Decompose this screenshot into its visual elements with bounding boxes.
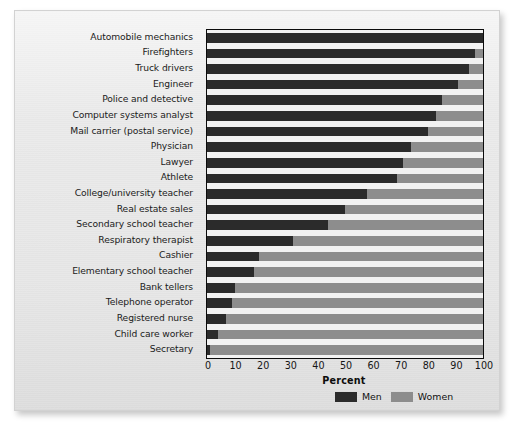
category-label: College/university teacher [75, 188, 193, 198]
legend-item: Men [335, 392, 382, 402]
category-label: Computer systems analyst [72, 110, 193, 120]
x-tick-label: 0 [205, 360, 211, 371]
x-tick-label: 10 [229, 360, 241, 371]
bar-segment-men [207, 205, 345, 215]
x-tick-label: 80 [423, 360, 435, 371]
bar-segment-women [403, 158, 483, 168]
legend-swatch-women [391, 392, 413, 402]
bar-row [207, 49, 483, 59]
category-label: Bank tellers [140, 282, 193, 292]
category-label: Automobile mechanics [90, 32, 193, 42]
bar-segment-men [207, 33, 483, 43]
category-label: Registered nurse [117, 313, 193, 323]
bar-segment-men [207, 298, 232, 308]
category-label: Truck drivers [135, 63, 193, 73]
category-label: Lawyer [160, 157, 193, 167]
category-label: Secretary [150, 344, 193, 354]
bar-segment-women [235, 283, 483, 293]
bar-segment-men [207, 236, 293, 246]
bar-segment-men [207, 330, 218, 340]
category-label: Telephone operator [106, 297, 193, 307]
bar-segment-men [207, 49, 475, 59]
bar-segment-women [254, 267, 483, 277]
bar-segment-women [345, 205, 483, 215]
category-axis-labels: Automobile mechanicsFirefightersTruck dr… [15, 29, 197, 357]
x-tick-label: 30 [285, 360, 297, 371]
x-axis-title: Percent [206, 375, 482, 386]
bar-row [207, 64, 483, 74]
bar-row [207, 267, 483, 277]
bar-row [207, 95, 483, 105]
bar-segment-women [259, 252, 483, 262]
bar-segment-women [328, 220, 483, 230]
bar-row [207, 189, 483, 199]
bar-segment-men [207, 283, 235, 293]
screenshot-root: Automobile mechanicsFirefightersTruck dr… [0, 0, 513, 427]
category-label: Elementary school teacher [72, 266, 193, 276]
bar-segment-women [397, 174, 483, 184]
bar-row [207, 283, 483, 293]
bar-segment-women [232, 298, 483, 308]
bar-segment-men [207, 189, 367, 199]
category-label: Secondary school teacher [76, 219, 193, 229]
bar-row [207, 330, 483, 340]
bar-segment-women [411, 142, 483, 152]
bar-segment-men [207, 314, 226, 324]
category-label: Cashier [159, 250, 193, 260]
bar-segment-women [475, 49, 483, 59]
bar-segment-men [207, 158, 403, 168]
bar-segment-women [210, 345, 483, 355]
category-label: Firefighters [143, 47, 193, 57]
bar-row [207, 236, 483, 246]
legend-label: Women [418, 392, 453, 402]
bar-row [207, 345, 483, 355]
bar-segment-men [207, 252, 259, 262]
bar-segment-men [207, 220, 328, 230]
chart-card: Automobile mechanicsFirefightersTruck dr… [14, 10, 500, 411]
bar-row [207, 298, 483, 308]
bar-segment-women [436, 111, 483, 121]
bar-segment-women [469, 64, 483, 74]
bar-row [207, 158, 483, 168]
x-tick-label: 20 [257, 360, 269, 371]
legend-swatch-men [335, 392, 357, 402]
category-label: Child care worker [114, 329, 193, 339]
category-label: Police and detective [102, 94, 193, 104]
category-label: Mail carrier (postal service) [70, 126, 193, 136]
legend-item: Women [391, 392, 453, 402]
bar-row [207, 142, 483, 152]
legend-label: Men [362, 392, 382, 402]
x-tick-label: 50 [340, 360, 352, 371]
bar-segment-men [207, 142, 411, 152]
bar-segment-women [428, 127, 483, 137]
bar-row [207, 111, 483, 121]
bar-row [207, 314, 483, 324]
bar-segment-women [226, 314, 483, 324]
x-tick-label: 60 [367, 360, 379, 371]
bar-segment-women [293, 236, 483, 246]
x-axis-ticks: 0102030405060708090100 [206, 360, 486, 374]
x-tick-label: 100 [475, 360, 493, 371]
bar-row [207, 252, 483, 262]
bar-segment-men [207, 64, 469, 74]
bar-row [207, 80, 483, 90]
plot-area [206, 29, 484, 359]
bar-segment-women [442, 95, 483, 105]
bar-row [207, 33, 483, 43]
bar-segment-men [207, 95, 442, 105]
bar-row [207, 127, 483, 137]
bar-segment-men [207, 111, 436, 121]
x-tick-label: 90 [450, 360, 462, 371]
bar-segment-men [207, 127, 428, 137]
category-label: Physician [151, 141, 193, 151]
bar-row [207, 220, 483, 230]
bar-segment-women [218, 330, 483, 340]
bar-segment-men [207, 267, 254, 277]
bar-segment-women [458, 80, 483, 90]
x-tick-label: 40 [312, 360, 324, 371]
x-tick-label: 70 [395, 360, 407, 371]
bar-segment-men [207, 80, 458, 90]
chart-legend: MenWomen [335, 392, 453, 402]
bar-segment-women [367, 189, 483, 199]
bar-segment-men [207, 174, 397, 184]
